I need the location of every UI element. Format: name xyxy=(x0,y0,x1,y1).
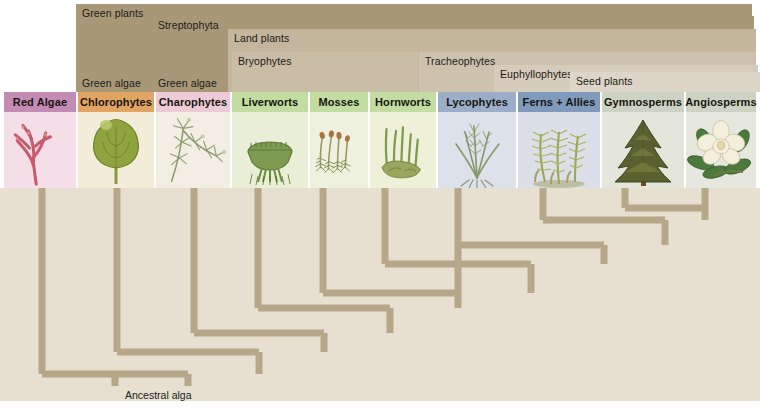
taxon-label-ferns-allies[interactable]: Ferns + Allies xyxy=(518,92,600,112)
hornwort-icon xyxy=(370,112,436,188)
clade-bands: Green plantsGreen algaeStreptophytaGreen… xyxy=(0,0,760,92)
clade-band-sublabel-green-plants: Green algae xyxy=(82,77,141,89)
clade-band-label-seed-plants: Seed plants xyxy=(576,75,633,87)
lycophyte-icon xyxy=(438,112,516,188)
cladogram-branches xyxy=(0,188,760,401)
taxon-label-chlorophytes[interactable]: Chlorophytes xyxy=(78,92,154,112)
taxon-label-gymnosperms[interactable]: Gymnosperms xyxy=(602,92,684,112)
taxon-label-mosses[interactable]: Mosses xyxy=(310,92,368,112)
taxon-illustration-gymnosperms xyxy=(602,112,684,188)
clade-band-label-tracheophytes: Tracheophytes xyxy=(425,55,495,67)
clade-band-bryophytes: Bryophytes xyxy=(232,52,418,92)
taxon-label-hornworts[interactable]: Hornworts xyxy=(370,92,436,112)
taxon-illustration-hornworts xyxy=(370,112,436,188)
moss-icon xyxy=(310,112,368,188)
clade-band-sublabel-streptophyta: Green algae xyxy=(158,77,217,89)
taxon-illustration-lycophytes xyxy=(438,112,516,188)
clade-band-label-euphyllophytes: Euphyllophytes xyxy=(500,68,573,80)
liverwort-icon xyxy=(232,112,308,188)
clade-band-seed-plants: Seed plants xyxy=(570,72,760,92)
clade-band-label-land-plants: Land plants xyxy=(234,32,289,44)
taxon-illustration-chlorophytes xyxy=(78,112,154,188)
ancestral-alga-label: Ancestral alga xyxy=(125,389,192,401)
sea-lettuce-icon xyxy=(78,112,154,188)
taxon-label-red-algae[interactable]: Red Algae xyxy=(4,92,76,112)
plant-phylogeny-figure: Green plantsGreen algaeStreptophytaGreen… xyxy=(0,0,760,413)
fern-icon xyxy=(518,112,600,188)
clade-band-label-streptophyta: Streptophyta xyxy=(158,19,219,31)
chara-icon xyxy=(156,112,230,188)
red-algae-icon xyxy=(4,112,76,188)
magnolia-icon xyxy=(686,112,756,188)
clade-band-label-green-plants: Green plants xyxy=(82,7,143,19)
taxon-label-charophytes[interactable]: Charophytes xyxy=(156,92,230,112)
taxon-label-liverworts[interactable]: Liverworts xyxy=(232,92,308,112)
illustration-row xyxy=(0,112,760,188)
clade-band-label-bryophytes: Bryophytes xyxy=(238,55,292,67)
taxon-illustration-charophytes xyxy=(156,112,230,188)
taxon-illustration-red-algae xyxy=(4,112,76,188)
taxon-label-lycophytes[interactable]: Lycophytes xyxy=(438,92,516,112)
cladogram: Ancestral alga xyxy=(0,188,760,401)
taxon-illustration-angiosperms xyxy=(686,112,756,188)
taxon-illustration-liverworts xyxy=(232,112,308,188)
figure-footer-margin xyxy=(0,401,760,413)
taxon-name-row: Red AlgaeChlorophytesCharophytesLiverwor… xyxy=(0,92,760,112)
taxon-label-angiosperms[interactable]: Angiosperms xyxy=(686,92,756,112)
conifer-icon xyxy=(602,112,684,188)
taxon-illustration-mosses xyxy=(310,112,368,188)
taxon-illustration-ferns-allies xyxy=(518,112,600,188)
